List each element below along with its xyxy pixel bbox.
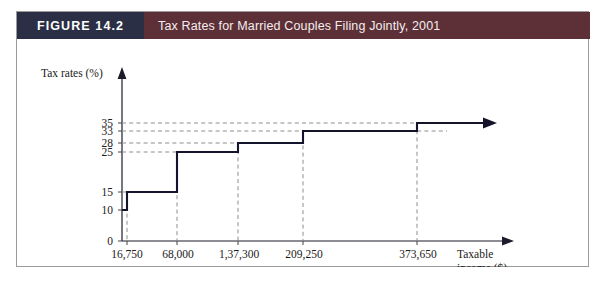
figure-header: FIGURE 14.2 Tax Rates for Married Couple… xyxy=(17,12,590,39)
x-tick-label-209250: 209,250 xyxy=(285,248,323,261)
y-tick-labels: 35 33 28 25 15 10 0 xyxy=(102,117,114,247)
x-tick-label-137300: 1,37,300 xyxy=(219,248,260,261)
x-tick-marks xyxy=(127,241,417,245)
figure-title: Tax Rates for Married Couples Filing Joi… xyxy=(158,19,440,33)
figure-number-label: FIGURE 14.2 xyxy=(37,19,124,33)
figure-title-bar: Tax Rates for Married Couples Filing Joi… xyxy=(144,12,590,39)
y-axis xyxy=(118,67,127,241)
x-axis-title-line1: Taxable xyxy=(457,248,493,260)
step-arrow-icon xyxy=(483,118,497,129)
step-chart-svg: Tax rates (%) xyxy=(17,39,590,267)
plot-area: Tax rates (%) xyxy=(17,39,590,267)
x-axis-title-line2: income ($) xyxy=(457,262,507,267)
x-axis xyxy=(122,237,514,246)
x-tick-label-373650: 373,650 xyxy=(399,248,437,261)
y-tick-label-25: 25 xyxy=(102,146,114,158)
y-tick-label-15: 15 xyxy=(102,186,114,198)
y-tick-label-33: 33 xyxy=(102,125,114,137)
x-tick-labels: 16,750 68,000 1,37,300 209,250 373,650 xyxy=(111,248,437,261)
y-tick-label-0: 0 xyxy=(107,235,113,247)
horizontal-gridlines xyxy=(122,123,472,192)
vertical-gridlines xyxy=(127,123,417,241)
figure-number-badge: FIGURE 14.2 xyxy=(17,12,144,39)
figure-container: FIGURE 14.2 Tax Rates for Married Couple… xyxy=(0,0,606,292)
x-tick-label-16750: 16,750 xyxy=(111,248,143,261)
x-tick-label-68000: 68,000 xyxy=(162,248,194,261)
figure-card: FIGURE 14.2 Tax Rates for Married Couple… xyxy=(16,11,589,267)
y-axis-title: Tax rates (%) xyxy=(41,67,103,80)
y-tick-label-10: 10 xyxy=(102,204,114,216)
